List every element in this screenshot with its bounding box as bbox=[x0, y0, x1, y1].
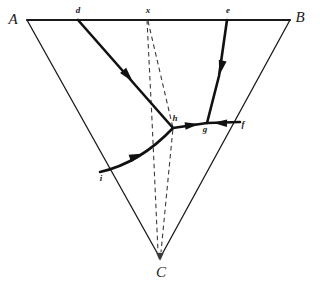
triangle-edge-bc bbox=[160, 20, 290, 258]
flow-path-e-to-g bbox=[207, 20, 227, 123]
dashed-path-x-to-h-to-c bbox=[148, 21, 173, 252]
node-label-x: x bbox=[145, 5, 151, 15]
node-label-g: g bbox=[202, 124, 208, 134]
arrowhead-e-to-g bbox=[215, 60, 226, 76]
vertex-label-a: A bbox=[7, 11, 18, 27]
node-label-h: h bbox=[172, 113, 177, 123]
flow-path-i-to-h bbox=[100, 128, 173, 172]
arrowhead-i-to-h bbox=[129, 150, 146, 162]
node-label-e: e bbox=[226, 5, 230, 15]
triangle-outline bbox=[27, 20, 290, 258]
diagram-canvas: A B C d x e f g h i bbox=[0, 0, 320, 290]
vertex-label-b: B bbox=[295, 9, 304, 25]
node-label-f: f bbox=[242, 119, 246, 129]
node-label-d: d bbox=[76, 5, 81, 15]
arrowhead-f-to-g bbox=[213, 119, 227, 127]
vertex-label-c: C bbox=[156, 264, 167, 280]
geometric-diagram: A B C d x e f g h i bbox=[0, 0, 320, 290]
flow-paths-group bbox=[78, 20, 240, 172]
node-label-i: i bbox=[100, 173, 103, 183]
node-labels-group: d x e f g h i bbox=[76, 5, 246, 183]
triangle-edge-ac bbox=[27, 20, 160, 258]
